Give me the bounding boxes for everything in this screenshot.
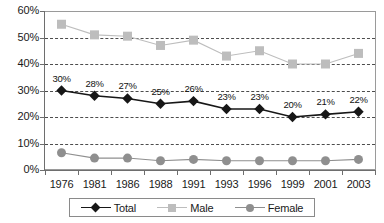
diamond-data-point — [287, 112, 297, 122]
circle-marker-icon — [235, 202, 265, 213]
legend-item-female[interactable]: Female — [235, 202, 303, 214]
chart-legend: Total Male Female — [69, 198, 315, 217]
square-data-point — [255, 46, 264, 55]
diamond-data-point — [254, 104, 264, 114]
circle-data-point — [354, 155, 363, 164]
square-data-point — [354, 49, 363, 58]
square-data-point — [288, 60, 297, 69]
series-line-female — [62, 153, 359, 161]
circle-data-point — [90, 154, 99, 163]
y-tick-mark — [40, 91, 45, 92]
data-label: 20% — [283, 100, 301, 110]
diamond-data-point — [155, 99, 165, 109]
y-tick-mark — [40, 144, 45, 145]
square-data-point — [321, 60, 330, 69]
circle-data-point — [57, 148, 66, 157]
square-data-point — [189, 36, 198, 45]
series-male — [57, 20, 363, 69]
y-tick-mark — [40, 170, 45, 171]
data-label: 28% — [85, 79, 103, 89]
square-marker-icon — [157, 202, 187, 213]
data-label: 21% — [316, 97, 334, 107]
legend-label-female: Female — [268, 202, 303, 214]
data-label: 23% — [217, 92, 235, 102]
square-data-point — [156, 41, 165, 50]
square-data-point — [123, 32, 132, 41]
legend-item-total[interactable]: Total — [81, 202, 136, 214]
series-line-male — [62, 24, 359, 64]
data-label: 25% — [151, 87, 169, 97]
diamond-data-point — [89, 91, 99, 101]
square-data-point — [90, 30, 99, 39]
data-label: 22% — [349, 95, 367, 105]
y-tick-mark — [40, 38, 45, 39]
data-label: 26% — [184, 84, 202, 94]
series-line-total — [62, 91, 359, 118]
diamond-data-point — [221, 104, 231, 114]
y-tick-mark — [40, 64, 45, 65]
square-data-point — [57, 20, 66, 29]
legend-label-total: Total — [114, 202, 136, 214]
data-label: 27% — [118, 81, 136, 91]
circle-data-point — [123, 154, 132, 163]
legend-label-male: Male — [190, 202, 213, 214]
y-tick-mark — [40, 11, 45, 12]
circle-data-point — [189, 155, 198, 164]
diamond-marker-icon — [81, 202, 111, 213]
data-label: 23% — [250, 92, 268, 102]
circle-data-point — [156, 156, 165, 165]
circle-data-point — [255, 156, 264, 165]
diamond-data-point — [353, 107, 363, 117]
square-data-point — [222, 52, 231, 61]
diamond-data-point — [188, 96, 198, 106]
diamond-data-point — [122, 93, 132, 103]
data-label: 30% — [52, 74, 70, 84]
legend-item-male[interactable]: Male — [157, 202, 213, 214]
y-tick-mark — [40, 117, 45, 118]
circle-data-point — [222, 156, 231, 165]
circle-data-point — [321, 156, 330, 165]
diamond-data-point — [320, 109, 330, 119]
series-female — [57, 148, 363, 165]
diamond-data-point — [56, 85, 66, 95]
line-chart: 0%10%20%30%40%50%60% 1976198119861988199… — [0, 0, 384, 223]
series-layer — [0, 0, 384, 223]
circle-data-point — [288, 156, 297, 165]
